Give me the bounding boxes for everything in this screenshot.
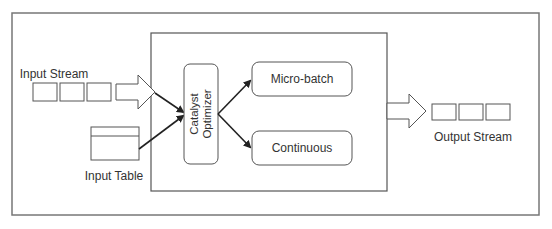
input-table-icon [91, 127, 139, 160]
input-stream-label: Input Stream [20, 67, 89, 81]
catalyst-label-line1: Catalyst [188, 92, 200, 134]
input-block-arrow [116, 75, 155, 109]
micro-batch-label: Micro-batch [271, 72, 334, 86]
input-stream-cells [33, 83, 111, 101]
arrow-catalyst-to-continuous [218, 114, 250, 147]
streaming-diagram: Input Stream Input Table Catalyst Optimi… [0, 0, 552, 229]
arrow-catalyst-to-microbatch [218, 81, 250, 114]
continuous-label: Continuous [272, 141, 333, 155]
arrow-table-to-catalyst [139, 116, 183, 149]
output-block-arrow [387, 94, 426, 128]
arrow-stream-to-catalyst [155, 93, 183, 112]
output-stream-label: Output Stream [434, 130, 512, 144]
output-stream-cells [432, 104, 510, 120]
catalyst-label-line2: Optimizer [201, 89, 213, 138]
input-table-label: Input Table [85, 169, 144, 183]
